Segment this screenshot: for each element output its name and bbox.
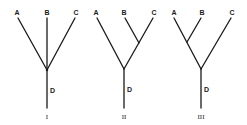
node-dot: [46, 69, 48, 71]
tree-1: A B C D I: [14, 9, 78, 121]
phylogenetic-trees-figure: A B C D I A B C D II A B C D III: [0, 0, 247, 125]
root-label-d: D: [50, 87, 55, 94]
branch-a: [97, 18, 124, 69]
branch-a: [18, 18, 47, 70]
tree-numeral: III: [198, 113, 206, 121]
tip-label-b: B: [199, 9, 204, 16]
tip-label-b: B: [121, 9, 126, 16]
tip-label-c: C: [229, 9, 234, 16]
tip-label-c: C: [73, 9, 78, 16]
branch-c: [124, 18, 153, 69]
tree-3: A B C D III: [171, 9, 234, 121]
tip-label-a: A: [171, 9, 176, 16]
tree-numeral: II: [122, 113, 127, 121]
branch-b: [125, 18, 139, 43]
tip-label-a: A: [14, 9, 19, 16]
branch-b: [187, 18, 201, 42]
tip-label-c: C: [151, 9, 156, 16]
tree-2: A B C D II: [93, 9, 156, 121]
tip-label-a: A: [93, 9, 98, 16]
root-label-d: D: [204, 86, 209, 93]
tip-label-b: B: [44, 9, 49, 16]
root-label-d: D: [127, 86, 132, 93]
tree-numeral: I: [46, 113, 49, 121]
branch-c: [47, 18, 75, 70]
branch-c: [201, 18, 231, 69]
